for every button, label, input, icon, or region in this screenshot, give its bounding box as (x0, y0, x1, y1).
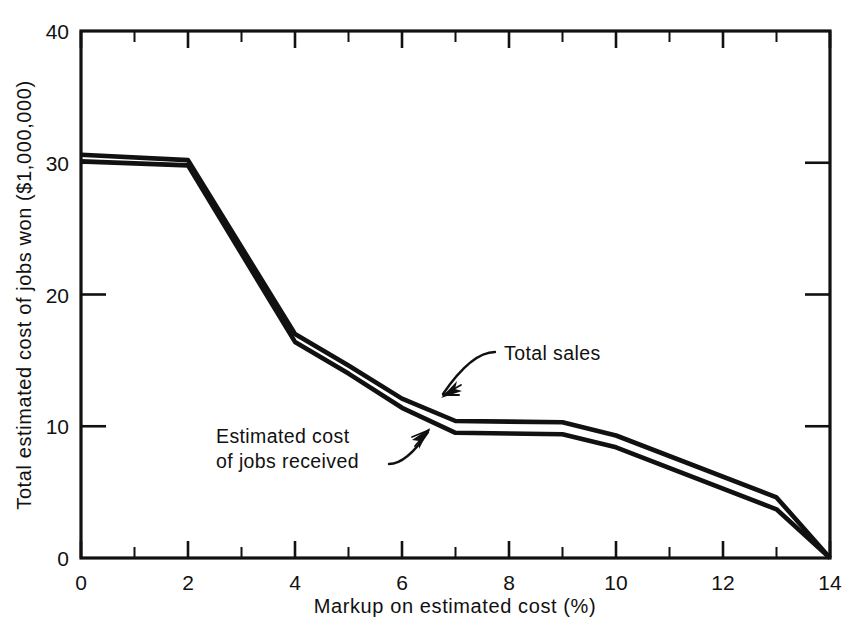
x-tick-label: 4 (289, 571, 301, 594)
annotation-estimated-cost-line1: Estimated cost (216, 425, 350, 447)
y-tick-label: 10 (46, 415, 69, 438)
figure-container: 02468101214 010203040 Total sales Estima… (0, 0, 859, 644)
annotation-total-sales-label: Total sales (504, 342, 601, 364)
x-tick-label: 8 (503, 571, 515, 594)
y-tick-label: 30 (46, 152, 69, 175)
y-tick-labels: 010203040 (46, 20, 69, 570)
annotation-estimated-cost: Estimated cost of jobs received (216, 425, 430, 472)
data-series-group (81, 155, 830, 558)
y-tick-label: 40 (46, 20, 69, 43)
x-tick-label: 12 (711, 571, 734, 594)
series-line-estimated-cost (81, 161, 830, 558)
x-tick-label: 10 (604, 571, 627, 594)
plot-frame (81, 31, 830, 558)
series-line-total-sales (81, 155, 830, 558)
x-axis-ticks (81, 541, 830, 558)
y-axis-title: Total estimated cost of jobs won ($1,000… (13, 80, 35, 509)
annotation-total-sales: Total sales (441, 342, 601, 398)
y-tick-label: 0 (57, 547, 69, 570)
x-tick-labels: 02468101214 (75, 571, 842, 594)
y-tick-label: 20 (46, 284, 69, 307)
x-tick-label: 14 (818, 571, 842, 594)
y-axis-ticks (81, 163, 106, 427)
y-axis-ticks-right (805, 163, 830, 427)
x-tick-label: 6 (396, 571, 408, 594)
annotation-estimated-cost-line2: of jobs received (216, 450, 359, 472)
chart-canvas: 02468101214 010203040 Total sales Estima… (0, 0, 859, 644)
x-tick-label: 2 (182, 571, 194, 594)
x-axis-title: Markup on estimated cost (%) (314, 595, 596, 617)
x-axis-ticks-top (81, 31, 830, 48)
x-tick-label: 0 (75, 571, 87, 594)
